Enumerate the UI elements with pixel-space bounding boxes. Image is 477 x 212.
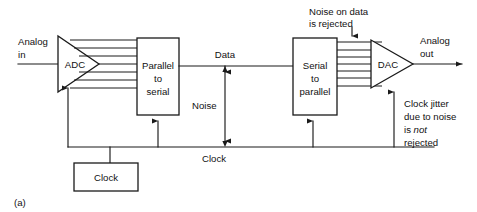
block-diagram-figure: Analog in ADC Parallel to serial Data No…: [0, 0, 477, 212]
figure-caption: (a): [14, 197, 26, 208]
serial-to-parallel-label-line1: Serial: [303, 60, 328, 71]
analog-in-label-line2: in: [18, 49, 25, 60]
dac-label: DAC: [378, 59, 398, 70]
noise-label: Noise: [192, 100, 217, 111]
data-label: Data: [215, 49, 236, 60]
diagram-canvas: Analog in ADC Parallel to serial Data No…: [0, 0, 477, 212]
analog-in-label-line1: Analog: [18, 36, 48, 47]
serial-to-parallel-label-line2: to: [311, 73, 319, 84]
noise-rejected-note-line1: Noise on data: [309, 6, 369, 17]
clock-jitter-note-line3-emphasis: not: [414, 124, 428, 135]
noise-rejected-note-line2: is rejected: [309, 18, 353, 29]
noise-double-arrow: [222, 66, 227, 147]
clock-jitter-note-line3-pre: is: [404, 124, 414, 135]
clock-bus-label: Clock: [202, 153, 226, 164]
parallel-to-serial-label-line3: serial: [147, 86, 170, 97]
clock-jitter-note-line2: due to noise: [404, 111, 456, 122]
clock-jitter-note-line1: Clock jitter: [404, 98, 450, 109]
parallel-to-serial-label-line1: Parallel: [142, 60, 174, 71]
adc-label: ADC: [65, 59, 85, 70]
clock-source-label: Clock: [94, 172, 118, 183]
clock-jitter-note-line3: is not: [404, 124, 427, 135]
clock-bus: [68, 88, 434, 163]
analog-out-label-line1: Analog: [420, 35, 450, 46]
clock-jitter-note-line4: rejected: [404, 137, 438, 148]
parallel-to-serial-label-line2: to: [154, 73, 162, 84]
analog-out-label-line2: out: [420, 48, 434, 59]
serial-to-parallel-label-line3: parallel: [300, 86, 331, 97]
